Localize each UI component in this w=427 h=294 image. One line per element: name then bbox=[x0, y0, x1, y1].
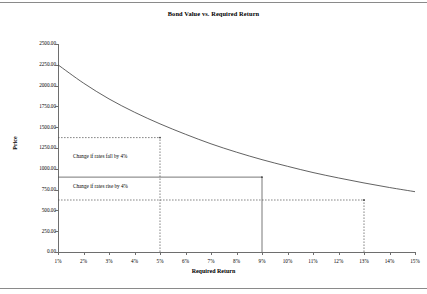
y-tick-label: 500.00 bbox=[10, 208, 56, 213]
y-tick-label: 750.00 bbox=[10, 187, 56, 192]
x-tick-label: 6% bbox=[172, 258, 200, 264]
x-tick-mark bbox=[339, 252, 340, 255]
x-tick-label: 7% bbox=[197, 258, 225, 264]
annotation-rates-fall: Change if rates fall by 4% bbox=[73, 153, 127, 159]
chart-title: Bond Value vs. Required Return bbox=[0, 10, 427, 17]
x-tick-label: 4% bbox=[121, 258, 149, 264]
curve-intersection-marker bbox=[159, 137, 161, 139]
y-tick-label: 2000.00 bbox=[10, 83, 56, 88]
x-tick-mark bbox=[262, 252, 263, 255]
y-tick-label: 1750.00 bbox=[10, 104, 56, 109]
x-tick-label: 10% bbox=[274, 258, 302, 264]
y-tick-label: 1500.00 bbox=[10, 125, 56, 130]
bond-value-curve bbox=[58, 65, 415, 192]
plot-area bbox=[58, 44, 415, 252]
y-tick-label: 2250.00 bbox=[10, 62, 56, 67]
x-tick-label: 9% bbox=[248, 258, 276, 264]
x-tick-label: 14% bbox=[376, 258, 404, 264]
x-tick-label: 8% bbox=[223, 258, 251, 264]
x-tick-label: 2% bbox=[70, 258, 98, 264]
x-tick-label: 13% bbox=[350, 258, 378, 264]
page-bottom-border bbox=[0, 288, 427, 289]
x-tick-label: 12% bbox=[325, 258, 353, 264]
x-tick-mark bbox=[313, 252, 314, 255]
y-tick-label: 1250.00 bbox=[10, 145, 56, 150]
curve-intersection-marker bbox=[261, 176, 263, 178]
x-tick-mark bbox=[186, 252, 187, 255]
x-tick-mark bbox=[84, 252, 85, 255]
x-tick-mark bbox=[160, 252, 161, 255]
y-tick-label: 1000.00 bbox=[10, 166, 56, 171]
chart-page: Bond Value vs. Required Return Price Req… bbox=[0, 0, 427, 294]
x-tick-mark bbox=[415, 252, 416, 255]
x-tick-mark bbox=[211, 252, 212, 255]
y-axis-tick-labels: 0.00250.00500.00750.001000.001250.001500… bbox=[6, 0, 56, 294]
x-tick-label: 11% bbox=[299, 258, 327, 264]
curve-intersection-marker bbox=[363, 199, 365, 201]
y-tick-label: 0.00 bbox=[10, 249, 56, 254]
x-tick-mark bbox=[288, 252, 289, 255]
x-tick-label: 15% bbox=[401, 258, 427, 264]
x-tick-mark bbox=[364, 252, 365, 255]
x-tick-mark bbox=[58, 252, 59, 255]
x-tick-mark bbox=[390, 252, 391, 255]
x-tick-mark bbox=[109, 252, 110, 255]
x-tick-mark bbox=[135, 252, 136, 255]
page-top-border bbox=[0, 2, 427, 3]
x-tick-mark bbox=[237, 252, 238, 255]
x-axis-title: Required Return bbox=[0, 268, 427, 274]
x-tick-label: 5% bbox=[146, 258, 174, 264]
y-tick-label: 250.00 bbox=[10, 229, 56, 234]
annotation-rates-rise: Change if rates rise by 4% bbox=[73, 183, 128, 189]
x-tick-label: 1% bbox=[44, 258, 72, 264]
y-tick-label: 2500.00 bbox=[10, 41, 56, 46]
x-tick-label: 3% bbox=[95, 258, 123, 264]
